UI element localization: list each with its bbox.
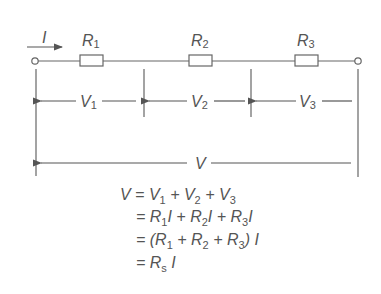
resistor-r2-label: R2 bbox=[191, 32, 209, 50]
equation-line-4: = Rs I bbox=[136, 254, 176, 274]
voltage-v3-label: V3 bbox=[299, 93, 316, 111]
resistor-r2 bbox=[189, 55, 212, 66]
resistor-r1 bbox=[80, 55, 103, 66]
current-label: I bbox=[42, 29, 47, 46]
total-voltage-label: V bbox=[195, 155, 207, 172]
resistor-r3 bbox=[295, 55, 318, 66]
resistor-r3-label: R3 bbox=[297, 32, 315, 50]
right-terminal bbox=[355, 58, 361, 64]
left-terminal bbox=[32, 58, 38, 64]
equation-line-1: V = V1 + V2 + V3 bbox=[120, 186, 236, 206]
voltage-v2-label: V2 bbox=[191, 93, 208, 111]
resistor-r1-label: R1 bbox=[82, 32, 100, 50]
voltage-v1-label: V1 bbox=[80, 93, 97, 111]
equation-line-3: = (R1 + R2 + R3) I bbox=[136, 231, 259, 251]
equation-line-2: = R1I + R2I + R3I bbox=[136, 208, 253, 228]
